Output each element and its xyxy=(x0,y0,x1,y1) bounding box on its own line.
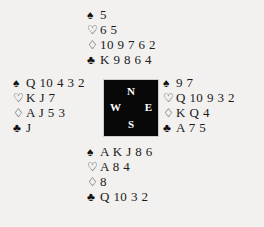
north-diamonds-ranks: 10 9 7 6 2 xyxy=(100,37,156,52)
west-hearts-row: ♡ K J 7 xyxy=(13,90,85,105)
east-spades-row: ♠ 9 7 xyxy=(163,75,235,90)
spade-icon: ♠ xyxy=(87,145,100,160)
heart-icon: ♡ xyxy=(163,91,176,106)
south-clubs-row: ♣ Q 10 3 2 xyxy=(87,189,153,204)
east-hearts-row: ♡ Q 10 9 3 2 xyxy=(163,90,235,105)
hand-west: ♠ Q 10 4 3 2 ♡ K J 7 ♢ A J 5 3 ♣ J xyxy=(13,75,85,135)
diamond-icon: ♢ xyxy=(163,106,176,121)
east-hearts-ranks: Q 10 9 3 2 xyxy=(176,90,235,105)
compass-box: N W E S xyxy=(103,79,159,137)
north-spades-row: ♠ 5 xyxy=(87,7,156,22)
hand-north: ♠ 5 ♡ 6 5 ♢ 10 9 7 6 2 ♣ K 9 8 6 4 xyxy=(87,7,156,67)
east-diamonds-row: ♢ K Q 4 xyxy=(163,105,235,120)
compass-south-label: S xyxy=(104,119,158,130)
west-spades-row: ♠ Q 10 4 3 2 xyxy=(13,75,85,90)
heart-icon: ♡ xyxy=(13,91,26,106)
club-icon: ♣ xyxy=(87,53,100,68)
east-spades-ranks: 9 7 xyxy=(176,75,193,90)
diamond-icon: ♢ xyxy=(13,106,26,121)
hand-south: ♠ A K J 8 6 ♡ A 8 4 ♢ 8 ♣ Q 10 3 2 xyxy=(87,144,153,204)
club-icon: ♣ xyxy=(87,190,100,205)
north-diamonds-row: ♢ 10 9 7 6 2 xyxy=(87,37,156,52)
south-diamonds-ranks: 8 xyxy=(100,174,107,189)
north-clubs-ranks: K 9 8 6 4 xyxy=(100,52,152,67)
north-hearts-ranks: 6 5 xyxy=(100,22,117,37)
spade-icon: ♠ xyxy=(13,76,26,91)
west-diamonds-row: ♢ A J 5 3 xyxy=(13,105,85,120)
bridge-deal-diagram: ♠ 5 ♡ 6 5 ♢ 10 9 7 6 2 ♣ K 9 8 6 4 ♠ Q 1… xyxy=(0,0,264,227)
compass-east-label: E xyxy=(145,102,152,113)
west-clubs-ranks: J xyxy=(26,120,31,135)
diamond-icon: ♢ xyxy=(87,175,100,190)
south-spades-ranks: A K J 8 6 xyxy=(100,144,153,159)
west-clubs-row: ♣ J xyxy=(13,120,85,135)
spade-icon: ♠ xyxy=(163,76,176,91)
south-spades-row: ♠ A K J 8 6 xyxy=(87,144,153,159)
south-diamonds-row: ♢ 8 xyxy=(87,174,153,189)
compass-north-label: N xyxy=(104,86,158,97)
east-diamonds-ranks: K Q 4 xyxy=(176,105,210,120)
compass-west-label: W xyxy=(110,102,121,113)
west-diamonds-ranks: A J 5 3 xyxy=(26,105,65,120)
north-hearts-row: ♡ 6 5 xyxy=(87,22,156,37)
club-icon: ♣ xyxy=(13,121,26,136)
west-hearts-ranks: K J 7 xyxy=(26,90,55,105)
south-hearts-ranks: A 8 4 xyxy=(100,159,130,174)
east-clubs-ranks: A 7 5 xyxy=(176,120,206,135)
east-clubs-row: ♣ A 7 5 xyxy=(163,120,235,135)
south-hearts-row: ♡ A 8 4 xyxy=(87,159,153,174)
hand-east: ♠ 9 7 ♡ Q 10 9 3 2 ♢ K Q 4 ♣ A 7 5 xyxy=(163,75,235,135)
north-spades-ranks: 5 xyxy=(100,7,107,22)
club-icon: ♣ xyxy=(163,121,176,136)
south-clubs-ranks: Q 10 3 2 xyxy=(100,189,148,204)
west-spades-ranks: Q 10 4 3 2 xyxy=(26,75,85,90)
spade-icon: ♠ xyxy=(87,8,100,23)
north-clubs-row: ♣ K 9 8 6 4 xyxy=(87,52,156,67)
heart-icon: ♡ xyxy=(87,160,100,175)
diamond-icon: ♢ xyxy=(87,38,100,53)
heart-icon: ♡ xyxy=(87,23,100,38)
